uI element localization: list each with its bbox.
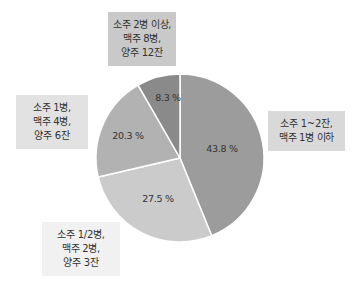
slice-label-4: 8.3 % <box>155 92 181 103</box>
callout-left: 소주 1병, 맥주 4병, 양주 6잔 <box>16 95 88 149</box>
callout-right: 소주 1~2잔, 맥주 1병 이하 <box>268 111 345 151</box>
callout-left-line-2: 맥주 4병, <box>33 115 71 129</box>
slice-label-2: 27.5 % <box>142 193 174 204</box>
slice-label-1: 43.8 % <box>206 143 238 154</box>
callout-right-line-2: 맥주 1병 이하 <box>279 131 334 145</box>
callout-bottom-line-3: 양주 3잔 <box>63 256 98 270</box>
slice-label-3: 20.3 % <box>112 130 144 141</box>
callout-top-line-3: 양주 12잔 <box>121 46 162 60</box>
callout-right-line-1: 소주 1~2잔, <box>280 117 332 131</box>
callout-left-line-1: 소주 1병, <box>33 101 71 115</box>
callout-top: 소주 2병 이상, 맥주 8병, 양주 12잔 <box>108 12 176 66</box>
callout-bottom-line-2: 맥주 2병, <box>62 242 100 256</box>
callout-top-line-1: 소주 2병 이상, <box>113 18 171 32</box>
callout-bottom: 소주 1/2병, 맥주 2병, 양주 3잔 <box>42 222 120 276</box>
callout-left-line-3: 양주 6잔 <box>34 129 69 143</box>
callout-bottom-line-1: 소주 1/2병, <box>57 228 104 242</box>
callout-top-line-2: 맥주 8병, <box>123 32 161 46</box>
